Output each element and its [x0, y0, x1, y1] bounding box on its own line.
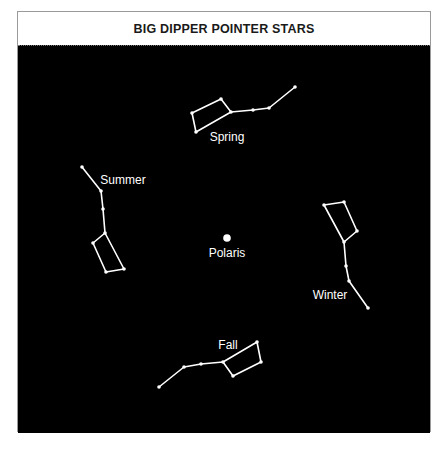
star-icon	[157, 385, 161, 389]
dipper-spring: Spring	[190, 85, 297, 144]
polaris-label: Polaris	[209, 246, 246, 260]
dipper-fall: Fall	[157, 338, 263, 389]
dipper-bowl-line	[192, 99, 231, 132]
star-icon	[103, 231, 107, 235]
dipper-bowl-line	[93, 233, 124, 272]
dipper-handle-line	[159, 362, 223, 387]
star-icon	[355, 229, 359, 233]
star-icon	[219, 97, 223, 101]
season-label: Spring	[210, 130, 245, 144]
star-chart: SpringSummerWinterFall Polaris	[0, 0, 445, 450]
star-icon	[342, 200, 346, 204]
star-icon	[99, 189, 103, 193]
star-icon	[122, 267, 126, 271]
season-label: Fall	[218, 338, 237, 352]
dipper-handle-line	[344, 242, 368, 308]
star-icon	[267, 106, 271, 110]
star-icon	[293, 85, 297, 89]
polaris: Polaris	[209, 234, 246, 260]
star-icon	[221, 360, 225, 364]
star-icon	[199, 362, 203, 366]
star-icon	[104, 270, 108, 274]
star-icon	[231, 374, 235, 378]
star-icon	[190, 111, 194, 115]
star-icon	[344, 264, 348, 268]
star-icon	[182, 365, 186, 369]
star-icon	[342, 240, 346, 244]
star-icon	[91, 241, 95, 245]
star-icon	[80, 165, 84, 169]
season-label: Summer	[100, 173, 145, 187]
star-icon	[322, 203, 326, 207]
dipper-bowl-line	[324, 202, 357, 242]
star-icon	[229, 110, 233, 114]
season-label: Winter	[313, 288, 348, 302]
star-icon	[366, 306, 370, 310]
star-icon	[251, 108, 255, 112]
dipper-winter: Winter	[313, 200, 370, 310]
dipper-handle-line	[231, 87, 295, 112]
star-icon	[194, 130, 198, 134]
star-icon	[101, 207, 105, 211]
star-icon	[259, 360, 263, 364]
star-icon	[347, 279, 351, 283]
dipper-summer: Summer	[80, 165, 145, 274]
polaris-star-icon	[223, 234, 231, 242]
star-icon	[255, 340, 259, 344]
